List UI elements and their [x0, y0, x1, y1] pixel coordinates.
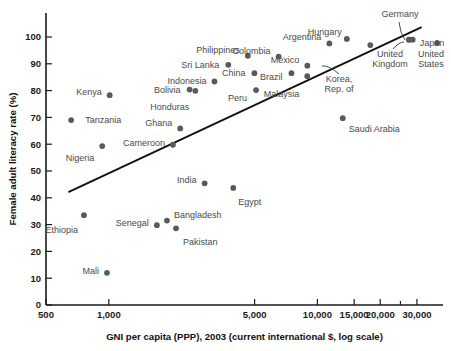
scatter-plot: 01020304050607080901005001,0005,00010,00…: [0, 0, 451, 351]
point-label: Bangladesh: [174, 210, 222, 220]
point-label: Egypt: [238, 197, 262, 207]
data-point[interactable]: [253, 87, 259, 93]
point-label: Honduras: [150, 102, 190, 112]
y-axis-title: Female adult literacy rate (%): [7, 93, 18, 226]
y-tick-label: 20: [30, 246, 41, 257]
x-tick-label: 20,000: [366, 309, 395, 320]
y-tick-label: 60: [30, 139, 41, 150]
point-label: Indonesia: [167, 76, 206, 86]
data-point[interactable]: [154, 222, 160, 228]
data-point[interactable]: [170, 142, 176, 148]
point-label: Pakistan: [183, 237, 218, 247]
point-label: Ghana: [145, 118, 172, 128]
data-point[interactable]: [81, 212, 87, 218]
chart-figure: 01020304050607080901005001,0005,00010,00…: [0, 0, 451, 351]
data-point[interactable]: [177, 125, 183, 131]
data-point[interactable]: [289, 70, 295, 76]
x-axis-title: GNI per capita (PPP), 2003 (current inte…: [106, 331, 383, 342]
data-point[interactable]: [252, 70, 258, 76]
y-tick-label: 10: [30, 273, 41, 284]
point-label: Mali: [82, 266, 99, 276]
point-label: Peru: [228, 93, 247, 103]
data-point[interactable]: [173, 225, 179, 231]
point-label: China: [222, 68, 246, 78]
data-point[interactable]: [344, 36, 350, 42]
x-tick-label: 5,000: [243, 309, 267, 320]
point-label: Cameroon: [123, 138, 165, 148]
point-label: Japan: [420, 38, 445, 48]
data-point[interactable]: [212, 79, 218, 85]
x-tick-label: 500: [38, 309, 54, 320]
y-tick-label: 30: [30, 219, 41, 230]
point-label: Tanzania: [85, 115, 121, 125]
point-label: States: [418, 59, 444, 69]
data-points-group: [68, 36, 440, 276]
point-label: Germany: [381, 9, 419, 19]
data-point[interactable]: [225, 62, 231, 68]
y-tick-label: 50: [30, 165, 41, 176]
point-label: United: [418, 49, 444, 59]
data-point[interactable]: [107, 92, 113, 98]
x-tick-label: 30,000: [402, 309, 431, 320]
point-label: Hungary: [308, 27, 343, 37]
y-tick-label: 100: [25, 31, 41, 42]
point-label: Kenya: [76, 87, 102, 97]
point-label: Malaysia: [264, 89, 300, 99]
point-label: Korea,: [326, 74, 353, 84]
data-point[interactable]: [304, 63, 310, 69]
data-point[interactable]: [164, 218, 170, 224]
point-label: Ethiopia: [45, 225, 78, 235]
point-label: Mexico: [271, 55, 300, 65]
data-point[interactable]: [68, 117, 74, 123]
point-labels-group: TanzaniaEthiopiaMaliNigeriaKenyaSenegalB…: [45, 9, 444, 276]
data-point[interactable]: [410, 37, 416, 43]
data-point[interactable]: [304, 73, 310, 79]
point-label: Rep. of: [324, 84, 354, 94]
data-point[interactable]: [187, 87, 193, 93]
x-tick-label: 10,000: [303, 309, 332, 320]
point-label: Kingdom: [372, 59, 408, 69]
point-label: Colombia: [233, 46, 271, 56]
point-label: United: [377, 49, 403, 59]
data-point[interactable]: [99, 143, 105, 149]
point-label: India: [177, 175, 197, 185]
point-label: Senegal: [116, 218, 149, 228]
y-tick-label: 70: [30, 112, 41, 123]
point-label: Brazil: [260, 72, 283, 82]
y-tick-label: 40: [30, 192, 41, 203]
data-point[interactable]: [367, 42, 373, 48]
data-point[interactable]: [230, 185, 236, 191]
point-label: Bolivia: [154, 85, 181, 95]
data-point[interactable]: [202, 180, 208, 186]
label-leader-line: [393, 42, 404, 49]
x-tick-label: 15,000: [340, 309, 369, 320]
x-tick-label: 1,000: [97, 309, 121, 320]
data-point[interactable]: [104, 270, 110, 276]
point-label: Sri Lanka: [181, 60, 219, 70]
point-label: Saudi Arabia: [349, 124, 400, 134]
data-point[interactable]: [192, 88, 198, 94]
y-tick-label: 90: [30, 58, 41, 69]
data-point[interactable]: [326, 41, 332, 47]
data-point[interactable]: [340, 115, 346, 121]
y-tick-label: 80: [30, 85, 41, 96]
point-label: Nigeria: [66, 153, 95, 163]
